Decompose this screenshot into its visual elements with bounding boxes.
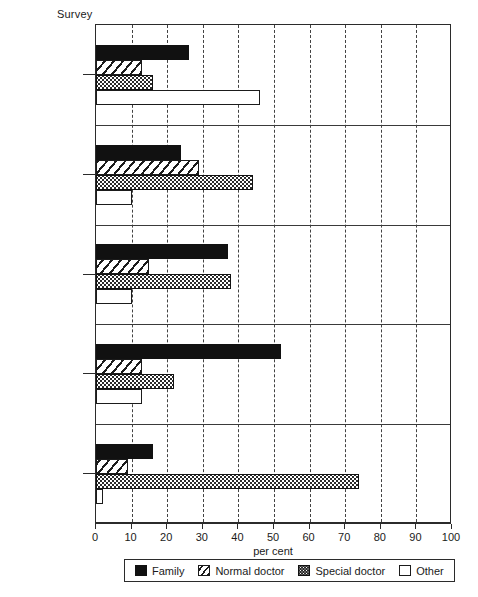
bar-other-mauritius	[96, 489, 103, 504]
x-tick-label-10: 10	[124, 531, 136, 543]
plot-area	[96, 25, 450, 522]
x-tick-0	[95, 524, 96, 529]
dotted-dark-swatch	[298, 565, 310, 576]
legend-item-normal-doctor: Normal doctor	[198, 565, 284, 577]
bar-other-car	[96, 90, 260, 105]
bar-normal-doctor-guinea-bissau	[96, 160, 199, 175]
x-tick-20	[166, 524, 167, 529]
bar-normal-doctor-mauritius	[96, 459, 128, 474]
x-tick-label-30: 30	[196, 531, 208, 543]
legend-label: Other	[416, 565, 444, 577]
legend: FamilyNormal doctorSpecial doctorOther	[124, 559, 455, 582]
bar-group-burundi	[96, 324, 450, 424]
bar-family-guinea-bissau	[96, 145, 181, 160]
category-leader-line	[83, 373, 95, 374]
bar-other-burundi	[96, 389, 142, 404]
bar-normal-doctor-car	[96, 60, 142, 75]
x-tick-60	[309, 524, 310, 529]
x-tick-label-70: 70	[338, 531, 350, 543]
category-leader-line	[83, 174, 95, 175]
x-tick-90	[415, 524, 416, 529]
bar-normal-doctor-togo	[96, 259, 149, 274]
x-tick-70	[344, 524, 345, 529]
x-tick-label-60: 60	[302, 531, 314, 543]
category-leader-line	[83, 274, 95, 275]
solid-black-swatch	[135, 565, 147, 576]
x-tick-40	[237, 524, 238, 529]
x-tick-label-0: 0	[92, 531, 98, 543]
x-tick-label-90: 90	[409, 531, 421, 543]
x-tick-label-40: 40	[231, 531, 243, 543]
bar-family-burundi	[96, 344, 281, 359]
bar-other-togo	[96, 289, 132, 304]
x-tick-10	[131, 524, 132, 529]
bar-other-guinea-bissau	[96, 190, 132, 205]
bar-group-car	[96, 25, 450, 125]
legend-item-family: Family	[135, 565, 184, 577]
category-leader-line	[83, 473, 95, 474]
legend-label: Normal doctor	[215, 565, 284, 577]
bar-special-doctor-burundi	[96, 374, 174, 389]
bar-group-togo	[96, 225, 450, 325]
x-tick-100	[451, 524, 452, 529]
x-tick-label-80: 80	[374, 531, 386, 543]
x-axis-title: per cent	[95, 545, 451, 557]
x-tick-80	[380, 524, 381, 529]
bar-family-togo	[96, 244, 228, 259]
bar-normal-doctor-burundi	[96, 359, 142, 374]
legend-item-other: Other	[399, 565, 444, 577]
legend-label: Family	[152, 565, 184, 577]
bar-special-doctor-mauritius	[96, 474, 359, 489]
bar-family-car	[96, 45, 189, 60]
plot-frame	[95, 24, 451, 523]
category-leader-line	[83, 74, 95, 75]
x-tick-50	[273, 524, 274, 529]
legend-item-special-doctor: Special doctor	[298, 565, 385, 577]
bar-family-mauritius	[96, 444, 153, 459]
survey-bar-chart: Survey 0102030405060708090100 per cent F…	[0, 0, 478, 597]
y-axis-title: Survey	[57, 8, 92, 20]
bar-group-guinea-bissau	[96, 125, 450, 225]
bar-special-doctor-togo	[96, 274, 231, 289]
x-tick-30	[202, 524, 203, 529]
bar-special-doctor-guinea-bissau	[96, 175, 253, 190]
bar-group-mauritius	[96, 424, 450, 524]
legend-label: Special doctor	[315, 565, 385, 577]
x-tick-label-20: 20	[160, 531, 172, 543]
x-tick-label-100: 100	[442, 531, 460, 543]
diagonal-hatch-swatch	[198, 565, 210, 576]
bar-special-doctor-car	[96, 75, 153, 90]
white-open-swatch	[399, 565, 411, 576]
x-tick-label-50: 50	[267, 531, 279, 543]
x-axis: 0102030405060708090100	[95, 523, 451, 524]
